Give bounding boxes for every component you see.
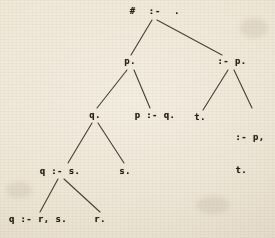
edge-q-fact-to-q-if-s xyxy=(68,123,92,163)
derivation-tree-figure: # :- . p. :- p. q. p :- q. t. :- p, t. q… xyxy=(0,0,275,238)
tree-node-goal-p: :- p. xyxy=(217,56,246,67)
tree-node-q-if-s: q :- s. xyxy=(40,166,81,177)
tree-node-q-fact: q. xyxy=(89,110,101,121)
edge-goal-p-to-goal-p-t xyxy=(234,70,252,108)
tree-node-q-if-r-s: q :- r, s. xyxy=(9,214,67,225)
edge-q-if-s-to-r-fact xyxy=(64,179,100,212)
tree-node-p-if-q: p :- q. xyxy=(135,110,176,121)
tree-node-goal-p-t: :- p, t. xyxy=(235,110,264,198)
tree-node-p-fact: p. xyxy=(124,56,136,67)
edge-root-to-goal-p xyxy=(157,20,222,55)
tree-node-t-fact: t. xyxy=(194,112,206,123)
edge-q-if-s-to-q-if-r-s xyxy=(40,179,58,212)
edge-goal-p-to-t-fact xyxy=(203,70,228,110)
edge-p-fact-to-q-fact xyxy=(97,70,127,108)
tree-node-goal-p-t-line1: :- p, xyxy=(235,132,264,143)
tree-node-root: # :- . xyxy=(130,6,181,17)
tree-node-s-fact: s. xyxy=(119,166,131,177)
edge-p-fact-to-p-if-q xyxy=(134,70,150,108)
edge-root-to-p-fact xyxy=(131,20,152,55)
tree-node-goal-p-t-line2: t. xyxy=(235,165,264,176)
edge-q-fact-to-s-fact xyxy=(98,123,124,163)
tree-node-r-fact: r. xyxy=(94,214,106,225)
